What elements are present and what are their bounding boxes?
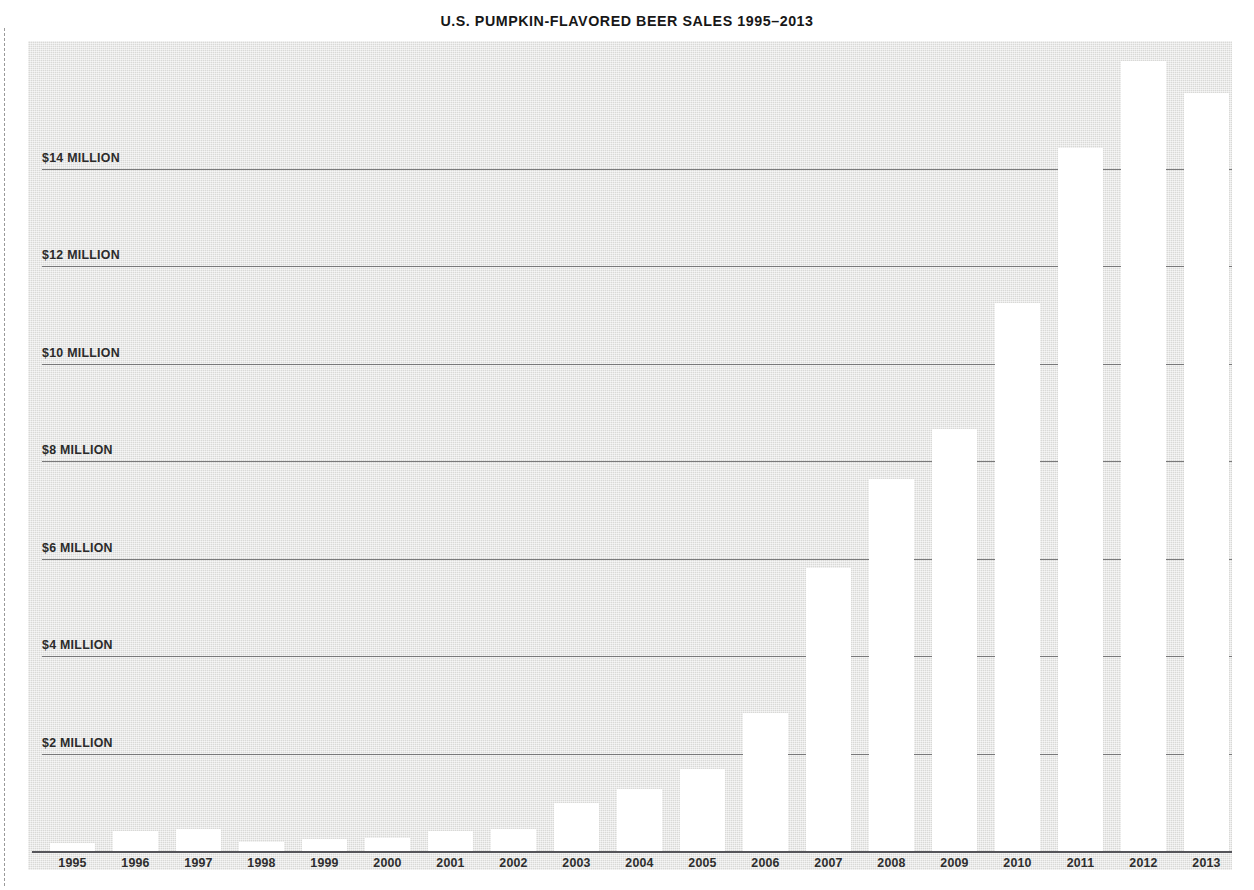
x-axis-label-1996: 1996 — [106, 855, 166, 870]
bar-2000 — [365, 838, 410, 851]
x-axis-label-1997: 1997 — [169, 855, 229, 870]
x-axis-label-1995: 1995 — [43, 855, 103, 870]
axis-tick-2007 — [788, 851, 805, 853]
axis-tick-2009 — [914, 851, 931, 853]
axis-tick-2010 — [977, 851, 994, 853]
axis-tick-2004 — [599, 851, 616, 853]
bar-1995 — [50, 843, 95, 851]
x-axis-label-2007: 2007 — [799, 855, 859, 870]
bar-2007 — [806, 568, 851, 851]
bars-layer — [28, 41, 1232, 870]
x-axis-label-1999: 1999 — [295, 855, 355, 870]
bar-2002 — [491, 829, 536, 851]
axis-tick-2013 — [1166, 851, 1183, 853]
x-axis-label-2011: 2011 — [1051, 855, 1111, 870]
axis-tick-1998 — [221, 851, 238, 853]
x-axis-label-2002: 2002 — [484, 855, 544, 870]
axis-tick-2003 — [536, 851, 553, 853]
axis-tick-1997 — [158, 851, 175, 853]
axis-tick-end — [1230, 851, 1232, 853]
axis-tick-1996 — [95, 851, 112, 853]
x-axis-label-2000: 2000 — [358, 855, 418, 870]
bar-1997 — [176, 829, 221, 851]
axis-tick-2006 — [725, 851, 742, 853]
x-axis-label-1998: 1998 — [232, 855, 292, 870]
chart-plot-area: $2 MILLION$4 MILLION$6 MILLION$8 MILLION… — [28, 41, 1232, 870]
bar-2001 — [428, 831, 473, 851]
axis-tick-2005 — [662, 851, 679, 853]
page-cut-line — [4, 28, 5, 886]
bar-1999 — [302, 839, 347, 851]
bar-2008 — [869, 479, 914, 851]
x-axis-label-2003: 2003 — [547, 855, 607, 870]
bar-2010 — [995, 303, 1040, 851]
bar-2005 — [680, 769, 725, 851]
x-axis-label-2008: 2008 — [862, 855, 922, 870]
axis-tick-2008 — [851, 851, 868, 853]
x-axis-label-2005: 2005 — [673, 855, 733, 870]
axis-tick-2002 — [473, 851, 490, 853]
x-axis-label-2006: 2006 — [736, 855, 796, 870]
x-axis-label-2012: 2012 — [1114, 855, 1174, 870]
axis-tick-2012 — [1103, 851, 1120, 853]
bar-2009 — [932, 429, 977, 851]
bar-1996 — [113, 831, 158, 851]
bar-2013 — [1184, 93, 1229, 851]
bar-1998 — [239, 842, 284, 851]
x-axis-label-2001: 2001 — [421, 855, 481, 870]
x-axis-label-2004: 2004 — [610, 855, 670, 870]
x-axis-label-2009: 2009 — [925, 855, 985, 870]
axis-tick-2001 — [410, 851, 427, 853]
bar-2011 — [1058, 148, 1103, 851]
bar-2012 — [1121, 61, 1166, 851]
axis-tick-2000 — [347, 851, 364, 853]
axis-tick-2011 — [1040, 851, 1057, 853]
bar-2006 — [743, 713, 788, 851]
x-axis-label-2013: 2013 — [1177, 855, 1232, 870]
bar-2003 — [554, 803, 599, 851]
axis-tick-1999 — [284, 851, 301, 853]
axis-tick-1995 — [32, 851, 49, 853]
x-axis-label-2010: 2010 — [988, 855, 1048, 870]
bar-2004 — [617, 789, 662, 851]
chart-title: U.S. PUMPKIN-FLAVORED BEER SALES 1995–20… — [50, 12, 1204, 30]
